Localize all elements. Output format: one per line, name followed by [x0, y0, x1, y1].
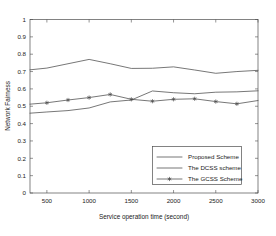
y-tick-label: 0.5	[17, 102, 26, 109]
legend-label: Proposed Scheme	[188, 153, 239, 160]
data-series-group	[30, 59, 258, 113]
y-tick-label: 0.2	[17, 155, 26, 162]
x-tick-label: 1500	[124, 197, 138, 204]
y-tick-label: 0.3	[17, 137, 26, 144]
y-axis-title: Network Fairness	[4, 81, 11, 131]
y-tick-label: 0.8	[17, 50, 26, 57]
series-1	[30, 91, 258, 113]
y-tick-label: 0.7	[17, 68, 26, 75]
x-tick-label: 2000	[167, 197, 181, 204]
y-tick-label: 1	[23, 16, 27, 23]
y-tick-label: 0	[23, 189, 27, 196]
legend-label: The DCSS scheme	[188, 164, 242, 171]
series-line	[30, 94, 258, 104]
series-0	[30, 59, 258, 73]
y-tick-label: 0.1	[17, 172, 26, 179]
x-tick-label: 3000	[251, 197, 265, 204]
x-tick-label: 500	[42, 197, 53, 204]
y-tick-label: 0.9	[17, 33, 26, 40]
y-tick-label: 0.6	[17, 85, 26, 92]
y-tick-label: 0.4	[17, 120, 26, 127]
legend-label: The GCSS Scheme	[188, 175, 243, 182]
x-axis-tick-labels: 50010001500200025003000	[42, 197, 266, 204]
line-chart: 00.10.20.30.40.50.60.70.80.91 5001000150…	[0, 0, 276, 236]
figure-container: 00.10.20.30.40.50.60.70.80.91 5001000150…	[0, 0, 276, 236]
chart-legend: Proposed SchemeThe DCSS schemeThe GCSS S…	[153, 147, 243, 185]
series-line	[30, 59, 258, 73]
series-line	[30, 91, 258, 113]
y-axis-tick-labels: 00.10.20.30.40.50.60.70.80.91	[17, 16, 26, 197]
x-axis-title: Service operation time (second)	[99, 213, 189, 221]
x-tick-label: 2500	[209, 197, 223, 204]
x-tick-label: 1000	[82, 197, 96, 204]
